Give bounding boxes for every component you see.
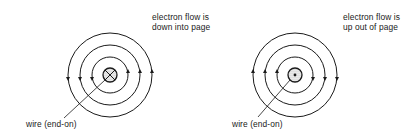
- arrow-down-icon: [66, 77, 94, 81]
- wire-pointer-line: [64, 80, 105, 118]
- arrow-down-icon: [311, 77, 339, 81]
- wire-label-right: wire (end-on): [232, 119, 283, 129]
- right-field-diagram: [251, 33, 339, 117]
- wire-cross-icon: [103, 68, 117, 82]
- flow-label-line1: electron flow is: [152, 12, 210, 22]
- left-field-diagram: [64, 33, 154, 118]
- arrow-up-icon: [251, 69, 279, 73]
- flow-direction-label-left: electron flow is down into page: [152, 12, 210, 32]
- flow-label-line2: down into page: [152, 22, 210, 32]
- wire-dot-icon: [288, 68, 302, 82]
- arrow-up-icon: [126, 69, 154, 73]
- flow-label-line1: electron flow is: [343, 12, 400, 22]
- wire-label-left: wire (end-on): [26, 119, 77, 129]
- flow-label-line2: up out of page: [343, 22, 400, 32]
- flow-direction-label-right: electron flow is up out of page: [343, 12, 400, 32]
